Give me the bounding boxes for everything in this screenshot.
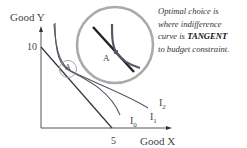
budget-line: [41, 47, 112, 128]
zoomed-tangent-point: [114, 50, 119, 55]
point-a-label: A: [65, 64, 71, 72]
x-intercept-label: 5: [111, 136, 116, 146]
zoom-point-a-label: A: [103, 54, 110, 63]
y-intercept-label: 10: [27, 42, 37, 52]
annotation-text: Optimal choice is where indifference cur…: [158, 5, 247, 55]
tangent-emphasis: TANGENT: [187, 31, 227, 41]
zoomed-budget-line: [93, 27, 134, 72]
y-axis-label: Good Y: [10, 12, 45, 23]
y-axis-arrow-icon: [39, 26, 43, 32]
x-axis-arrow-icon: [166, 126, 172, 130]
curve-label-i0: I0: [130, 116, 137, 126]
curve-label-i1: I1: [150, 112, 157, 122]
curve-label-i2: I2: [159, 98, 166, 108]
x-axis-label: Good X: [140, 136, 175, 147]
zoom-circle: [77, 7, 153, 83]
zoomed-indifference-curve: [112, 24, 140, 68]
